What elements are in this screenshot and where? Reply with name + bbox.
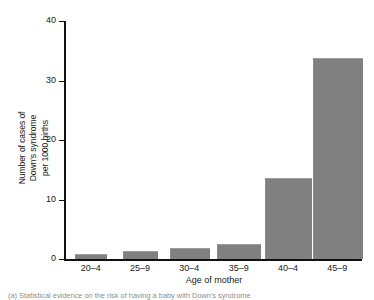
bar xyxy=(123,251,159,259)
x-axis-tick-label: 45–9 xyxy=(313,263,362,274)
bar xyxy=(170,248,209,259)
x-axis-tick-label: 30–4 xyxy=(165,263,214,274)
x-axis-tick-label: 20–4 xyxy=(66,263,115,274)
bar xyxy=(313,58,363,260)
x-axis-tick-label: 40–4 xyxy=(263,263,312,274)
x-axis-line xyxy=(64,259,362,261)
bar xyxy=(75,254,107,259)
x-axis-title: Age of mother xyxy=(66,275,362,286)
y-axis-tick-labels: 010203040 xyxy=(32,0,56,300)
y-axis-tick-label: 30 xyxy=(34,76,56,85)
y-axis-tick-label: 40 xyxy=(34,16,56,25)
y-axis-title-line-1: Number of cases of xyxy=(17,112,28,185)
figure-caption: (a) Statistical evidence on the risk of … xyxy=(8,291,368,300)
x-axis-tick-label: 25–9 xyxy=(115,263,164,274)
x-axis-tick-label: 35–9 xyxy=(214,263,263,274)
bar xyxy=(265,178,312,259)
bar xyxy=(217,244,260,259)
plot-area xyxy=(66,21,362,259)
figure-downs-syndrome-bar-chart: Number of cases of Down's syndrome per 1… xyxy=(0,0,374,300)
y-axis-tick-label: 10 xyxy=(34,195,56,204)
y-axis-tick-label: 0 xyxy=(34,254,56,263)
y-axis-tick-label: 20 xyxy=(34,135,56,144)
